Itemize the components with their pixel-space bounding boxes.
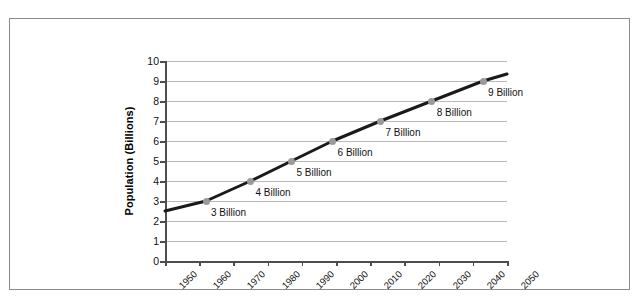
y-tick-label: 4 — [139, 176, 159, 187]
data-point-marker — [480, 78, 487, 85]
y-tick-label: 8 — [139, 96, 159, 107]
x-tick — [165, 261, 167, 266]
x-tick — [199, 261, 201, 266]
x-tick-label: 2000 — [348, 269, 370, 291]
x-tick-label: 2040 — [485, 269, 507, 291]
data-line — [165, 61, 507, 261]
x-tick — [233, 261, 235, 266]
x-tick-label: 1980 — [280, 269, 302, 291]
chart-figure: Population (Billions) 012345678910 19501… — [9, 18, 630, 290]
x-tick — [302, 261, 304, 266]
y-tick-label: 3 — [139, 196, 159, 207]
data-point-label: 8 Billion — [437, 108, 472, 118]
x-tick — [404, 261, 406, 266]
x-tick-label: 1970 — [246, 269, 268, 291]
x-tick-label: 2030 — [451, 269, 473, 291]
x-tick — [336, 261, 338, 266]
x-tick-label: 1960 — [211, 269, 233, 291]
x-tick-label: 1990 — [314, 269, 336, 291]
y-tick-label: 9 — [139, 76, 159, 87]
x-tick-label: 2020 — [417, 269, 439, 291]
y-tick-label: 6 — [139, 136, 159, 147]
y-tick-label: 7 — [139, 116, 159, 127]
data-point-marker — [288, 158, 295, 165]
x-tick — [439, 261, 441, 266]
x-tick — [268, 261, 270, 266]
y-tick-label: 1 — [139, 236, 159, 247]
x-tick — [370, 261, 372, 266]
data-point-marker — [329, 138, 336, 145]
data-point-label: 5 Billion — [297, 168, 332, 178]
x-tick-label: 2050 — [519, 269, 541, 291]
x-tick-label: 1950 — [177, 269, 199, 291]
data-point-label: 3 Billion — [211, 208, 246, 218]
data-point-marker — [203, 198, 210, 205]
x-tick — [473, 261, 475, 266]
data-point-label: 9 Billion — [488, 88, 523, 98]
data-point-marker — [247, 178, 254, 185]
data-point-label: 6 Billion — [338, 148, 373, 158]
x-tick — [507, 261, 509, 266]
plot-area: 012345678910 195019601970198019902000201… — [165, 61, 507, 261]
y-tick-label: 10 — [139, 56, 159, 67]
data-point-marker — [428, 98, 435, 105]
y-tick-label: 0 — [139, 256, 159, 267]
x-tick-label: 2010 — [382, 269, 404, 291]
y-tick-label: 2 — [139, 216, 159, 227]
data-point-label: 4 Billion — [256, 188, 291, 198]
y-axis-title: Population (Billions) — [123, 61, 137, 261]
data-point-marker — [377, 118, 384, 125]
y-tick-label: 5 — [139, 156, 159, 167]
data-point-label: 7 Billion — [385, 128, 420, 138]
